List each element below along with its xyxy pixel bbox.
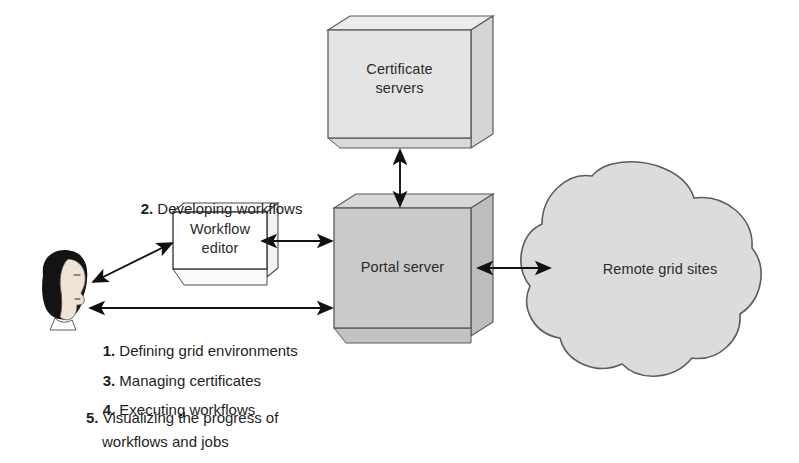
task-list-item-5-text-line1: Visualizing the progress of — [99, 409, 279, 426]
task-list-item-5-number: 5. — [86, 409, 99, 426]
annotation-developing-workflows-number: 2. — [141, 200, 154, 217]
remote-grid-sites-cloud — [521, 162, 761, 376]
annotation-developing-workflows: 2. Developing workflows — [124, 180, 302, 237]
task-list-item-5: 5. Visualizing the progress of workflows… — [86, 406, 278, 454]
user-avatar-icon — [42, 250, 87, 330]
task-list-item-5-text-line2: workflows and jobs — [86, 430, 278, 454]
portal-server-box — [334, 194, 493, 343]
annotation-developing-workflows-text: Developing workflows — [153, 200, 302, 217]
diagram-canvas: portal server (vertical) --> portal serv… — [0, 0, 799, 463]
arrow-user-workflow-editor — [93, 243, 172, 282]
certificate-servers-box — [328, 16, 493, 148]
